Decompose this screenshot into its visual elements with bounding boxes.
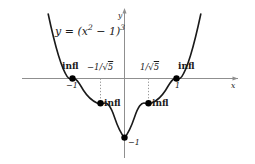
equation-prefix: y = (x	[55, 25, 88, 38]
infl-label-top-right: infl	[178, 62, 195, 71]
x-value-label-minus-one-over-root-five: −1/√5	[87, 63, 113, 72]
radicand-right: 5	[154, 62, 159, 72]
infl-label-bottom-left: infl	[104, 99, 121, 108]
point-infl-lower-left	[97, 100, 103, 106]
x-axis-label: x	[231, 82, 235, 90]
point-infl-lower-right	[145, 100, 151, 106]
radicand-left: 5	[108, 62, 113, 72]
x-axis	[22, 76, 238, 80]
function-graph-figure: y = (x2 − 1)3 y x infl infl infl infl −1…	[0, 0, 255, 164]
point-minimum	[121, 134, 127, 140]
x-value-label-one-over-root-five: 1/√5	[140, 63, 159, 72]
x-tick-label-minus-one: −1	[66, 82, 78, 90]
infl-label-top-left: infl	[62, 62, 79, 71]
x-tick-label-one: 1	[175, 82, 180, 90]
equation-middle: − 1)	[93, 25, 121, 38]
infl-label-bottom-right: infl	[152, 99, 169, 108]
equation-label: y = (x2 − 1)3	[55, 24, 125, 37]
y-tick-label-minus-one: −1	[128, 139, 140, 147]
frac-left-numerator: −1/	[87, 62, 102, 72]
equation-exponent-3: 3	[120, 23, 125, 32]
y-axis-label: y	[118, 12, 122, 20]
